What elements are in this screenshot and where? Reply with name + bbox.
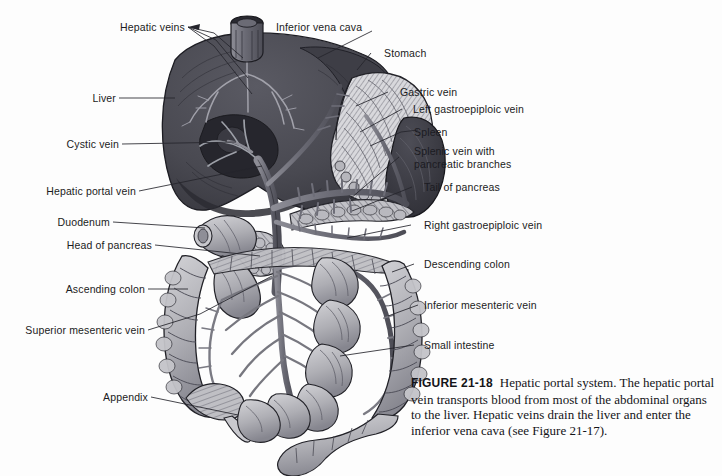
label-duodenum: Duodenum: [10, 216, 110, 229]
label-ascending-colon: Ascending colon: [10, 283, 145, 296]
label-stomach: Stomach: [384, 47, 427, 60]
label-hepatic-veins: Hepatic veins: [10, 21, 185, 34]
label-small-intestine: Small intestine: [424, 339, 495, 352]
label-descending-colon: Descending colon: [424, 258, 510, 271]
label-tail-of-pancreas: Tail of pancreas: [424, 181, 500, 194]
label-hepatic-portal-vein: Hepatic portal vein: [10, 185, 136, 198]
label-cystic-vein: Cystic vein: [10, 138, 119, 151]
label-spleen: Spleen: [414, 126, 448, 139]
label-liver: Liver: [10, 92, 116, 105]
label-left-gastroepiploic-vein: Left gastroepiploic vein: [413, 103, 524, 116]
hepatic-veins-arrowheads: [188, 24, 200, 30]
figure-caption: FIGURE 21-18Hepatic portal system. The h…: [411, 375, 717, 438]
label-head-of-pancreas: Head of pancreas: [10, 239, 152, 252]
label-superior-mesenteric-vein: Superior mesenteric vein: [6, 324, 145, 337]
label-gastric-vein: Gastric vein: [400, 86, 457, 99]
figure-page: Hepatic veins Liver Cystic vein Hepatic …: [0, 0, 722, 476]
label-splenic-vein-line2: pancreatic branches: [414, 158, 511, 171]
label-inferior-vena-cava: Inferior vena cava: [276, 21, 362, 34]
figure-number: FIGURE 21-18: [411, 376, 500, 390]
label-right-gastroepiploic-vein: Right gastroepiploic vein: [424, 219, 542, 232]
label-inferior-mesenteric-vein: Inferior mesenteric vein: [424, 299, 537, 312]
inferior-vena-cava-vessel: [231, 16, 263, 62]
label-splenic-vein-line1: Splenic vein with: [414, 145, 495, 158]
label-appendix: Appendix: [10, 391, 148, 404]
